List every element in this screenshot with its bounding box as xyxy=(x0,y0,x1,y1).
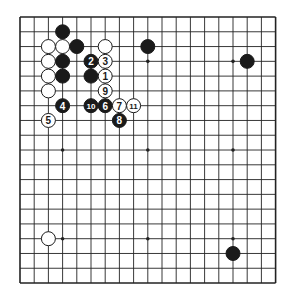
black-stone xyxy=(70,40,84,54)
white-stone-move-5: 5 xyxy=(41,113,55,127)
move-number: 9 xyxy=(102,86,108,97)
star-point xyxy=(61,237,65,241)
move-number: 2 xyxy=(88,56,94,67)
star-point xyxy=(146,148,150,152)
white-stone-move-11: 11 xyxy=(127,99,141,113)
black-stone xyxy=(240,54,254,68)
move-number: 7 xyxy=(117,101,123,112)
move-number: 5 xyxy=(46,115,52,126)
black-stone xyxy=(56,69,70,83)
white-stone-move-7: 7 xyxy=(112,99,126,113)
star-point xyxy=(231,148,235,152)
white-stone xyxy=(41,84,55,98)
white-stone xyxy=(41,54,55,68)
black-stone xyxy=(56,25,70,39)
move-number: 10 xyxy=(87,102,96,111)
white-stone xyxy=(41,232,55,246)
go-board: 2319410671158 xyxy=(0,0,294,303)
black-stone xyxy=(56,54,70,68)
black-stone-move-4: 4 xyxy=(56,99,70,113)
star-point xyxy=(61,148,65,152)
move-number: 6 xyxy=(102,101,108,112)
white-stone-move-3: 3 xyxy=(98,54,112,68)
black-stone-move-8: 8 xyxy=(112,113,126,127)
move-number: 3 xyxy=(102,56,108,67)
black-stone-move-2: 2 xyxy=(84,54,98,68)
star-point xyxy=(231,60,235,64)
move-number: 11 xyxy=(129,102,138,111)
move-number: 8 xyxy=(117,115,123,126)
white-stone-move-1: 1 xyxy=(98,69,112,83)
star-point xyxy=(146,60,150,64)
black-stone xyxy=(141,40,155,54)
white-stone xyxy=(41,40,55,54)
black-stone xyxy=(226,246,240,260)
move-number: 4 xyxy=(60,101,66,112)
black-stone-move-6: 6 xyxy=(98,99,112,113)
white-stone-move-9: 9 xyxy=(98,84,112,98)
star-point xyxy=(231,237,235,241)
white-stone xyxy=(41,69,55,83)
white-stone xyxy=(56,40,70,54)
black-stone-move-10: 10 xyxy=(84,99,98,113)
white-stone xyxy=(98,40,112,54)
move-number: 1 xyxy=(102,71,108,82)
black-stone xyxy=(84,69,98,83)
star-point xyxy=(146,237,150,241)
